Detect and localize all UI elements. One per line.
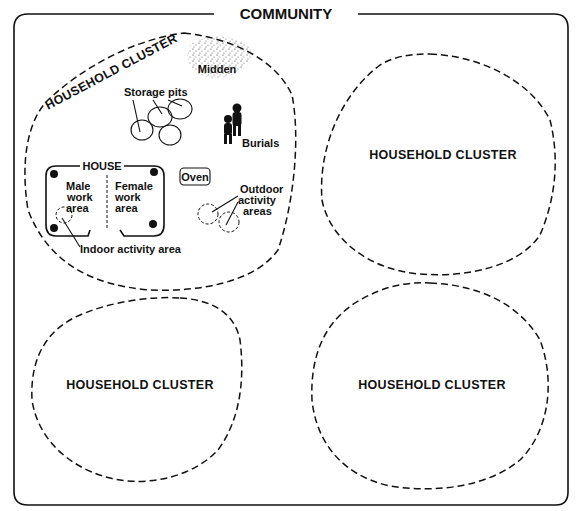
community-diagram: COMMUNITY HOUSEHOLD CLUSTER Midden Stora… [0,0,578,511]
household-cluster-2-label: HOUSEHOLD CLUSTER [369,148,516,162]
storage-pits [131,99,192,145]
household-cluster-3-label: HOUSEHOLD CLUSTER [66,378,213,392]
midden-label: Midden [198,63,237,75]
burials-figures-icon [224,104,242,145]
indoor-pointer [62,218,80,247]
oven-label: Oven [181,171,209,183]
household-cluster-2-boundary [322,54,556,275]
female-area-label: Femaleworkarea [114,180,153,214]
indoor-activity-label: Indoor activity area [80,243,182,255]
outdoor-activity-label: Outdooractivityareas [238,183,284,217]
household-cluster-primary-label: HOUSEHOLD CLUSTER [43,31,180,113]
storage-pits-label: Storage pits [124,86,188,98]
community-boundary [14,14,568,505]
outdoor-activity-area-1 [198,204,218,224]
household-cluster-4-label: HOUSEHOLD CLUSTER [358,378,505,392]
community-title: COMMUNITY [240,5,333,22]
male-area-label: Maleworkarea [66,180,94,214]
house-label: HOUSE [82,160,121,172]
outdoor-pointer-2 [226,202,238,225]
burials-label: Burials [242,137,279,149]
outdoor-activity-area-2 [219,212,239,232]
